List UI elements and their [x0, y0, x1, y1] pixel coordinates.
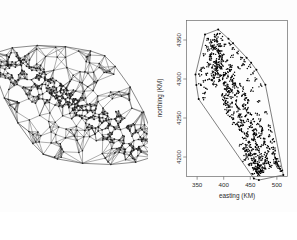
scatter-point [273, 161, 274, 162]
mesh-node [115, 111, 117, 113]
scatter-point [264, 112, 265, 113]
mesh-node [35, 85, 37, 87]
scatter-point [253, 118, 254, 119]
mesh-node [114, 152, 116, 154]
mesh-edge [74, 136, 83, 137]
scatter-point [270, 162, 271, 163]
hull-vertex [246, 57, 248, 59]
mesh-node [119, 149, 121, 151]
scatter-point [228, 90, 229, 91]
scatter-point [271, 165, 272, 166]
mesh-edge [102, 134, 108, 135]
mesh-node [7, 65, 9, 67]
scatter-point [233, 122, 234, 123]
scatter-point [248, 80, 249, 81]
mesh-node [83, 90, 85, 92]
scatter-point [244, 148, 245, 149]
scatter-point [270, 141, 271, 142]
scatter-point [230, 65, 231, 66]
scatter-point [227, 59, 228, 60]
scatter-point [230, 57, 231, 58]
scatter-point [212, 83, 213, 84]
scatter-point [274, 161, 275, 162]
scatter-point [261, 131, 262, 132]
scatter-point [250, 91, 251, 92]
scatter-point [225, 105, 226, 106]
scatter-point [246, 80, 247, 81]
scatter-point [232, 86, 233, 87]
scatter-point [214, 80, 215, 81]
mesh-node [73, 89, 75, 91]
scatter-point [253, 134, 254, 135]
mesh-node [67, 104, 69, 106]
scatter-point [241, 57, 242, 58]
scatter-point [274, 150, 275, 151]
hull-vertex [198, 98, 200, 100]
scatter-point [247, 107, 248, 108]
mesh-node [55, 134, 57, 136]
mesh-edge [17, 112, 30, 120]
mesh-node [128, 143, 130, 145]
mesh-node [37, 95, 39, 97]
mesh-node [21, 74, 23, 76]
mesh-node [45, 84, 47, 86]
mesh-edge [45, 104, 50, 113]
mesh-node [97, 101, 99, 103]
mesh-node [131, 135, 133, 137]
mesh-node [27, 63, 29, 65]
scatter-point [253, 156, 254, 157]
mesh-edge [98, 131, 102, 135]
mesh-node [107, 112, 109, 114]
scatter-point [253, 70, 254, 71]
mesh-node [21, 70, 23, 72]
mesh-node [69, 97, 71, 99]
scatter-point [228, 64, 230, 66]
mesh-node [81, 82, 83, 84]
mesh-node [111, 133, 113, 135]
mesh-edge [25, 49, 37, 56]
mesh-node [120, 121, 122, 123]
scatter-point [230, 64, 231, 65]
mesh-node [95, 108, 97, 110]
scatter-point [265, 163, 266, 164]
mesh-node [103, 72, 105, 74]
mesh-edge [121, 108, 132, 115]
scatter-point [252, 140, 253, 141]
y-tick-label: 4250 [175, 111, 182, 125]
scatter-point [262, 158, 263, 159]
scatter-point [202, 67, 203, 68]
x-tick-label: 350 [192, 181, 203, 188]
scatter-point [243, 121, 244, 122]
scatter-point [236, 86, 238, 88]
mesh-node [48, 81, 50, 83]
scatter-point [242, 64, 243, 65]
mesh-node [11, 74, 13, 76]
mesh-node [137, 139, 139, 141]
mesh-node [29, 66, 31, 68]
scatter-point [245, 139, 246, 140]
scatter-point [214, 40, 215, 41]
mesh-node [99, 118, 101, 120]
scatter-point [257, 155, 259, 157]
mesh-node [41, 84, 43, 86]
scatter-point [216, 38, 217, 39]
triangulation-mesh [0, 45, 148, 164]
mesh-edge [37, 56, 46, 64]
scatter-point [204, 97, 205, 98]
mesh-node [103, 136, 105, 138]
scatter-point [207, 79, 208, 80]
mesh-node [50, 93, 52, 95]
scatter-point [260, 83, 261, 84]
mesh-node [59, 99, 61, 101]
scatter-point [219, 33, 220, 34]
scatter-point [250, 153, 251, 154]
scatter-point [259, 157, 260, 158]
scatter-point [203, 54, 204, 55]
scatter-point [224, 82, 225, 83]
mesh-edge [121, 96, 129, 100]
scatter-point [227, 114, 228, 115]
mesh-edge [46, 47, 56, 56]
mesh-node [127, 125, 129, 127]
mesh-node [102, 122, 104, 124]
mesh-edge [55, 116, 62, 122]
